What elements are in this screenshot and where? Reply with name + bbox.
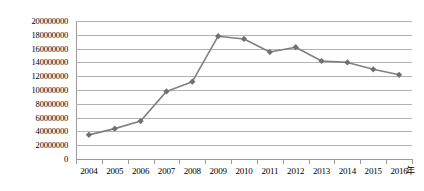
y-axis-tick-label: 140000000 [32,58,68,67]
x-axis-tick-label: 2011 [261,165,278,177]
line-chart: 0200000004000000060000000800000001000000… [0,0,424,191]
x-axis-tick [128,160,129,164]
y-axis-tick-label: 180000000 [32,30,68,39]
x-axis-tick-label: 2013 [313,165,330,177]
x-axis-tick-label: 2007 [158,165,175,177]
x-axis-tick-label: 2010 [235,165,252,177]
y-axis-tick-label: 160000000 [32,44,68,53]
x-axis-tick [412,160,413,164]
x-axis-tick [76,160,77,164]
data-point-marker [267,49,273,55]
x-axis-tick [179,160,180,164]
y-axis-tick-label: 100000000 [32,86,68,95]
plot-area [76,21,412,159]
series-line [89,36,399,135]
y-axis-tick-label: 60000000 [36,113,68,122]
y-axis-tick-label: 0 [64,155,68,164]
x-axis-tick-label: 2006 [132,165,149,177]
x-axis-tick-label: 2015 [365,165,382,177]
data-point-marker [189,79,195,85]
x-axis-tick-label: 2014 [339,165,356,177]
data-point-marker [344,59,350,65]
data-point-marker [396,72,402,78]
x-axis-tick [283,160,284,164]
data-point-marker [318,58,324,64]
x-axis-tick [102,160,103,164]
data-point-marker [293,44,299,50]
x-axis-tick [205,160,206,164]
data-point-marker [215,33,221,39]
x-axis-tick-label: 2008 [184,165,201,177]
x-axis-tick [231,160,232,164]
y-axis-tick-label: 80000000 [36,99,68,108]
y-axis-tick-label: 40000000 [36,127,68,136]
y-axis-tick-label: 20000000 [36,141,68,150]
x-axis-tick-labels: 2004200520062007200820092010201120122013… [76,165,413,179]
x-axis-tick [386,160,387,164]
series-line-layer [76,21,412,159]
y-axis-tick-label: 120000000 [32,72,68,81]
x-axis-tick [334,160,335,164]
x-axis-tick-label: 2005 [106,165,123,177]
x-axis-tick [154,160,155,164]
y-axis-tick-labels: 0200000004000000060000000800000001000000… [0,0,72,191]
data-point-marker [241,36,247,42]
data-point-marker [112,126,118,132]
x-axis-tick-label: 2004 [80,165,97,177]
x-axis-title: 年 [406,165,415,177]
x-axis-tick [257,160,258,164]
x-axis-tick-label: 2012 [287,165,304,177]
data-point-marker [370,66,376,72]
data-point-marker [86,132,92,138]
y-axis-tick-label: 200000000 [32,17,68,26]
x-axis-tick [360,160,361,164]
x-axis-tick [309,160,310,164]
x-axis-tick-label: 2009 [210,165,227,177]
